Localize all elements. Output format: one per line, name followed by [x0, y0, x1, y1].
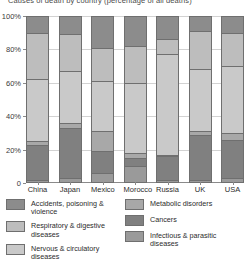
bar-segment[interactable] — [221, 133, 244, 140]
x-axis-label: China — [26, 185, 49, 194]
bar-column[interactable] — [124, 16, 147, 183]
legend-item[interactable]: Metabolic disorders — [125, 199, 242, 210]
bar-segment[interactable] — [26, 33, 49, 80]
x-axis-labels: ChinaJapanMexicoMoroccoRussiaUKUSA — [26, 185, 244, 194]
bar-segment[interactable] — [221, 140, 244, 178]
y-axis-tick-label: 20% — [6, 145, 21, 154]
chart-legend: Accidents, poisoning & violenceRespirato… — [6, 199, 242, 251]
x-axis-label: Mexico — [91, 185, 114, 194]
bar-segment[interactable] — [91, 81, 114, 131]
legend-swatch — [125, 215, 144, 226]
y-axis-tick-label: 0 — [17, 179, 21, 188]
legend-item-label: Respiratory & digestive diseases — [31, 221, 123, 238]
legend-item-label: Metabolic disorders — [150, 199, 212, 208]
bar-segment[interactable] — [156, 16, 179, 39]
bar-segment[interactable] — [26, 79, 49, 141]
x-axis-label-text: Japan — [60, 185, 80, 194]
x-axis-label: UK — [189, 185, 212, 194]
legend-item-label: Cancers — [150, 215, 177, 224]
y-axis-tick-label: 40% — [6, 112, 21, 121]
legend-swatch — [6, 244, 25, 255]
bar-segment[interactable] — [59, 34, 82, 71]
legend-item[interactable]: Cancers — [125, 215, 242, 226]
legend-swatch — [6, 221, 25, 232]
legend-item-label: Infectious & parasitic diseases — [150, 231, 242, 248]
bar-segment[interactable] — [91, 16, 114, 48]
x-axis-label: USA — [221, 185, 244, 194]
legend-item-label: Accidents, poisoning & violence — [31, 199, 123, 216]
bar-segment[interactable] — [91, 48, 114, 81]
bar-segment[interactable] — [59, 71, 82, 123]
bar-segment[interactable] — [221, 16, 244, 33]
legend-item-label: Nervous & circulatory diseases — [31, 244, 123, 261]
bar-segment[interactable] — [26, 16, 49, 33]
bar-column[interactable] — [156, 16, 179, 183]
legend-item[interactable]: Accidents, poisoning & violence — [6, 199, 123, 216]
y-axis-tick-label: 60% — [6, 78, 21, 87]
bar-column[interactable] — [91, 16, 114, 183]
legend-column-left: Accidents, poisoning & violenceRespirato… — [6, 199, 123, 251]
x-axis-tick-mark — [200, 182, 201, 185]
bar-group — [26, 16, 244, 183]
x-axis-label-text: Morocco — [124, 185, 153, 194]
legend-item[interactable]: Nervous & circulatory diseases — [6, 244, 123, 261]
x-axis-label: Morocco — [124, 185, 147, 194]
legend-item[interactable]: Respiratory & digestive diseases — [6, 221, 123, 238]
chart-title: Causes of death by country (percentage o… — [8, 0, 192, 5]
x-axis-tick-mark — [135, 182, 136, 185]
x-axis-label: Russia — [156, 185, 179, 194]
legend-swatch — [125, 231, 144, 242]
bar-segment[interactable] — [124, 46, 147, 83]
x-axis-tick-mark — [70, 182, 71, 185]
bar-segment[interactable] — [124, 16, 147, 46]
bar-segment[interactable] — [221, 66, 244, 133]
legend-item[interactable]: Infectious & parasitic diseases — [125, 231, 242, 248]
bar-segment[interactable] — [221, 33, 244, 66]
x-axis-label-text: UK — [195, 185, 205, 194]
x-axis-label: Japan — [59, 185, 82, 194]
bar-segment[interactable] — [91, 151, 114, 173]
bar-segment[interactable] — [156, 156, 179, 179]
x-axis-tick-mark — [103, 182, 104, 185]
bar-segment[interactable] — [189, 69, 212, 131]
bar-segment[interactable] — [124, 158, 147, 166]
legend-swatch — [6, 199, 25, 210]
x-axis-label-text: USA — [225, 185, 240, 194]
plot-area: 020%40%60%80%100% — [26, 16, 244, 183]
bar-segment[interactable] — [156, 54, 179, 154]
bar-segment[interactable] — [156, 39, 179, 54]
bar-segment[interactable] — [189, 135, 212, 180]
bar-segment[interactable] — [124, 83, 147, 153]
bar-segment[interactable] — [189, 31, 212, 69]
bar-column[interactable] — [26, 16, 49, 183]
x-axis-tick-mark — [168, 182, 169, 185]
bar-column[interactable] — [59, 16, 82, 183]
bar-column[interactable] — [189, 16, 212, 183]
bar-segment[interactable] — [59, 128, 82, 178]
x-axis-label-text: Mexico — [91, 185, 115, 194]
bar-segment[interactable] — [91, 131, 114, 151]
bar-segment[interactable] — [124, 166, 147, 183]
x-axis-tick-mark — [233, 182, 234, 185]
y-axis-tick-label: 80% — [6, 45, 21, 54]
x-axis-label-text: China — [28, 185, 48, 194]
y-axis-tick-label: 100% — [2, 12, 21, 21]
x-axis-label-text: Russia — [156, 185, 179, 194]
bar-column[interactable] — [221, 16, 244, 183]
legend-swatch — [125, 199, 144, 210]
y-axis-tick-mark — [23, 183, 26, 184]
bar-segment[interactable] — [189, 16, 212, 31]
x-axis-tick-mark — [38, 182, 39, 185]
legend-column-right: Metabolic disordersCancersInfectious & p… — [123, 199, 242, 251]
bar-segment[interactable] — [59, 16, 82, 34]
bar-segment[interactable] — [26, 145, 49, 180]
